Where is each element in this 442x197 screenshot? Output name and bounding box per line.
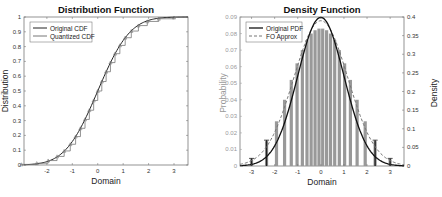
x-tick-label: -3 [249, 169, 255, 175]
y-tick-label-left: 0.08 [225, 31, 237, 37]
y-tick-label-right: 0.1 [407, 126, 416, 132]
probability-bar [313, 30, 316, 166]
x-tick-label: 3 [172, 168, 176, 174]
y-tick-label-right: 0.05 [407, 144, 419, 150]
y-tick-label-right: 0.25 [407, 70, 419, 76]
legend-label: FO Approx [266, 33, 298, 41]
probability-bar [310, 34, 313, 166]
y-tick-label: 0.5 [13, 88, 22, 94]
probability-bar [321, 29, 324, 166]
x-tick-label: -2 [44, 168, 50, 174]
y-tick-label-right: 0 [407, 163, 411, 169]
y-tick-label-left: 0.02 [225, 130, 237, 136]
probability-bar [329, 34, 332, 166]
y-tick-label: 1 [18, 14, 22, 20]
probability-bar [301, 50, 304, 166]
x-axis-label: Domain [307, 177, 337, 187]
x-tick-label: 2 [147, 168, 151, 174]
probability-bar [349, 80, 352, 166]
x-tick-label: 3 [388, 169, 392, 175]
legend: Original PDF FO Approx [246, 22, 303, 42]
y-tick-label-left: 0 [234, 163, 238, 169]
y-tick-label: 0.3 [13, 118, 22, 124]
x-axis-label: Domain [91, 176, 121, 186]
y-axis-label-right: Density [429, 78, 439, 107]
y-tick-label-left: 0.09 [225, 14, 237, 20]
x-tick-label: 0 [319, 169, 323, 175]
probability-bar [325, 30, 328, 166]
probability-bar [290, 80, 293, 166]
probability-bar [333, 40, 336, 166]
y-tick-label: 0.1 [13, 147, 22, 153]
y-tick-label: 0 [18, 162, 22, 168]
probability-bar [317, 29, 320, 166]
y-tick-label-right: 0.15 [407, 107, 419, 113]
legend-label: Quantized CDF [50, 33, 95, 41]
y-tick-label: 0.9 [13, 29, 22, 35]
x-tick-label: -1 [70, 168, 76, 174]
y-axis-label-left: Probability [218, 72, 228, 112]
x-tick-label: 1 [342, 169, 346, 175]
y-tick-label-left: 0.03 [225, 113, 237, 119]
y-axis-label: Distribution [0, 69, 10, 112]
y-tick-label-right: 0.2 [407, 89, 416, 95]
figure: Distribution Function -2-1012300.10.20.3… [0, 0, 442, 197]
y-tick-label-left: 0.07 [225, 47, 237, 53]
y-tick-label: 0.7 [13, 58, 22, 64]
x-tick-label: -1 [295, 169, 301, 175]
legend-label: Original PDF [266, 25, 303, 33]
probability-bar [305, 40, 308, 166]
chart-title: Distribution Function [58, 4, 154, 15]
y-tick-label-right: 0.3 [407, 51, 416, 57]
legend: Original CDF Quantized CDF [30, 22, 95, 42]
y-tick-label-right: 0.4 [407, 14, 416, 20]
y-tick-label-left: 0.01 [225, 146, 237, 152]
probability-bar [338, 50, 341, 166]
y-tick-label: 0.6 [13, 73, 22, 79]
y-tick-label: 0.2 [13, 132, 22, 138]
x-tick-label: -2 [272, 169, 278, 175]
probability-bar [283, 100, 286, 166]
x-tick-label: 2 [365, 169, 369, 175]
x-tick-label: 1 [121, 168, 125, 174]
x-tick-label: 0 [96, 168, 100, 174]
distribution-chart: Distribution Function -2-1012300.10.20.3… [0, 4, 188, 186]
y-tick-label-left: 0.06 [225, 64, 237, 70]
y-tick-label-right: 0.35 [407, 33, 419, 39]
chart-title: Density Function [283, 4, 360, 15]
legend-label: Original CDF [50, 25, 88, 33]
y-tick-label: 0.8 [13, 44, 22, 50]
density-chart: Density Function -3-2-1012300.010.020.03… [218, 4, 439, 187]
y-tick-label: 0.4 [13, 103, 22, 109]
